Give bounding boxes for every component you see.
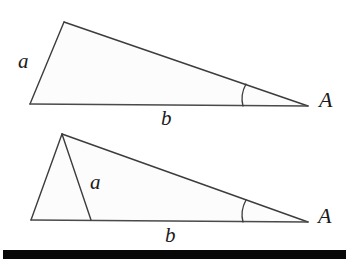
triangle-two-label-b: b <box>165 225 176 246</box>
triangle-one-label-a: a <box>18 51 29 72</box>
triangle-one-label-angle-A: A <box>319 89 332 111</box>
triangle-two-shape <box>31 134 308 222</box>
triangle-one-shape <box>30 22 308 106</box>
triangle-two-group <box>31 134 308 222</box>
triangle-two-label-a: a <box>90 172 101 193</box>
bottom-black-bar <box>3 250 346 259</box>
triangles-diagram <box>0 0 353 268</box>
triangle-one-group <box>30 22 308 106</box>
triangle-one-label-b: b <box>161 108 172 129</box>
triangle-two-label-angle-A: A <box>318 205 331 227</box>
figure-container: a b A a b A <box>0 0 353 268</box>
